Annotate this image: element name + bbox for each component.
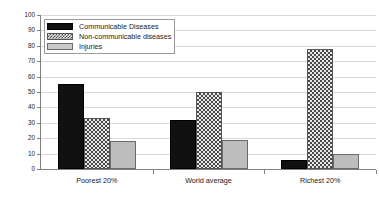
bar xyxy=(84,118,110,169)
bar xyxy=(170,120,196,169)
y-tick-mark xyxy=(37,46,40,47)
y-tick-mark xyxy=(37,138,40,139)
bar xyxy=(58,84,84,169)
legend-item-communicable-diseases: Communicable Diseases xyxy=(47,22,171,31)
bar xyxy=(307,49,333,169)
bar xyxy=(196,92,222,169)
legend-swatch-icon-communicable-diseases xyxy=(47,23,73,30)
y-tick-label: 80 xyxy=(28,43,35,49)
legend-label-non-communicable-diseases: Non-communicable diseases xyxy=(79,32,171,41)
bar xyxy=(222,140,248,169)
legend-item-non-communicable-diseases: Non-communicable diseases xyxy=(47,32,171,41)
y-tick-mark xyxy=(37,92,40,93)
y-tick-label: 30 xyxy=(28,120,35,126)
x-tick-mark xyxy=(264,170,265,174)
legend-swatch-icon-non-communicable-diseases xyxy=(47,33,73,40)
y-tick-label: 20 xyxy=(28,135,35,141)
y-tick-label: 40 xyxy=(28,104,35,110)
y-tick-label: 60 xyxy=(28,73,35,79)
bar-chart: Percentage of deaths 0102030405060708090… xyxy=(0,0,379,207)
chart-legend: Communicable Diseases Non-communicable d… xyxy=(44,19,175,54)
bar xyxy=(110,141,136,169)
x-axis-line xyxy=(40,169,376,170)
y-tick-mark xyxy=(37,30,40,31)
legend-swatch-icon-injuries xyxy=(47,43,73,50)
x-category-label: World average xyxy=(185,176,232,185)
y-tick-mark xyxy=(37,154,40,155)
bar xyxy=(281,160,307,169)
legend-item-injuries: Injuries xyxy=(47,42,171,51)
y-tick-label: 90 xyxy=(28,27,35,33)
y-tick-label: 100 xyxy=(24,12,35,18)
x-category-label: Richest 20% xyxy=(300,176,340,185)
y-tick-mark xyxy=(37,107,40,108)
x-category-label: Poorest 20% xyxy=(76,176,117,185)
y-tick-mark xyxy=(37,77,40,78)
legend-label-injuries: Injuries xyxy=(79,42,102,51)
bar xyxy=(333,154,359,169)
x-tick-mark xyxy=(153,170,154,174)
y-tick-mark xyxy=(37,169,40,170)
x-tick-mark xyxy=(376,170,377,174)
y-tick-label: 10 xyxy=(28,150,35,156)
legend-label-communicable-diseases: Communicable Diseases xyxy=(79,22,159,31)
y-tick-label: 50 xyxy=(28,89,35,95)
y-tick-mark xyxy=(37,61,40,62)
y-tick-label: 70 xyxy=(28,58,35,64)
y-tick-label: 0 xyxy=(31,166,35,172)
y-tick-mark xyxy=(37,123,40,124)
y-tick-mark xyxy=(37,15,40,16)
